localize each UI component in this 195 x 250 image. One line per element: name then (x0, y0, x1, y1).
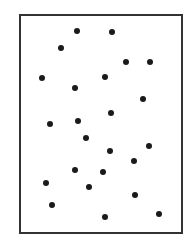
dot-8 (72, 85, 78, 91)
dot-18 (100, 169, 106, 175)
dot-13 (83, 135, 89, 141)
dot-22 (49, 202, 55, 208)
dot-5 (147, 59, 153, 65)
dot-7 (102, 74, 108, 80)
dot-19 (43, 180, 49, 186)
dot-24 (156, 211, 162, 217)
dot-17 (72, 167, 78, 173)
dot-4 (123, 59, 129, 65)
dot-3 (58, 45, 64, 51)
dot-10 (108, 110, 114, 116)
dot-20 (86, 184, 92, 190)
dot-15 (146, 143, 152, 149)
dot-16 (131, 158, 137, 164)
dot-11 (47, 121, 53, 127)
dot-9 (140, 96, 146, 102)
dot-21 (132, 192, 138, 198)
dot-14 (107, 148, 113, 154)
dot-2 (109, 29, 115, 35)
dot-23 (102, 214, 108, 220)
dot-6 (39, 75, 45, 81)
dot-1 (74, 28, 80, 34)
diagram-frame (19, 14, 183, 234)
dot-12 (75, 118, 81, 124)
